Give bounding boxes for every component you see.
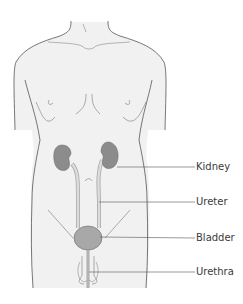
urinary-system-diagram xyxy=(0,0,243,304)
kidney-label: Kidney xyxy=(196,161,230,173)
urethra-label: Urethra xyxy=(196,266,234,278)
bladder-label: Bladder xyxy=(196,232,235,244)
kidney-right xyxy=(101,142,118,169)
ureter-label: Ureter xyxy=(196,196,228,208)
bladder xyxy=(74,226,102,250)
kidney-left xyxy=(54,145,71,171)
